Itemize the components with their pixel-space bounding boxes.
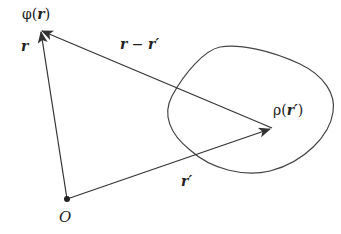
rho-label: ρ(r′) xyxy=(273,102,303,118)
rho-argument: r′ xyxy=(287,102,298,118)
vector-r-prime-arrow xyxy=(67,129,270,199)
vector-r-arrow xyxy=(41,32,67,199)
phi-argument: r xyxy=(37,6,44,22)
origin-label: O xyxy=(59,208,71,226)
r-vector-label: r xyxy=(21,38,28,54)
r-prime-vector-label: r′ xyxy=(181,173,192,189)
charge-distribution-region xyxy=(168,46,334,173)
origin-point xyxy=(64,196,70,202)
r-minus-r-prime-label: r − r′ xyxy=(120,36,159,52)
rho-symbol: ρ xyxy=(273,102,281,118)
phi-label: φ(r) xyxy=(22,6,50,22)
phi-symbol: φ xyxy=(22,6,32,22)
